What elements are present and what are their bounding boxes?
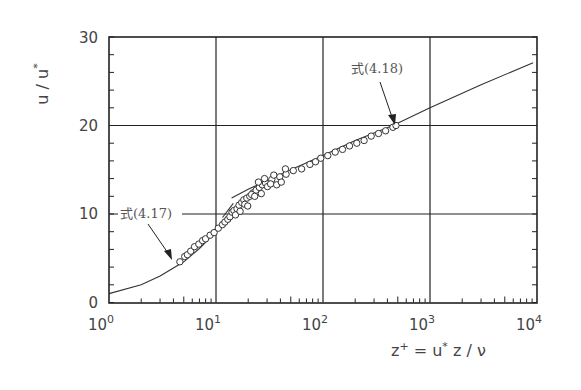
data-point-circle xyxy=(252,193,258,199)
data-point-circle xyxy=(346,143,352,149)
x-axis-title: z+ = u* z / ν xyxy=(391,340,486,360)
annotation-text-4-18: 式(4.18) xyxy=(351,61,403,76)
data-point-circle xyxy=(382,128,388,134)
gridlines xyxy=(109,37,537,303)
data-point-circle xyxy=(271,172,277,178)
arrow-head-icon xyxy=(388,114,396,125)
data-point-circle xyxy=(261,175,267,181)
data-point-circle xyxy=(245,203,251,209)
data-point-circle xyxy=(267,181,273,187)
y-tick-0: 0 xyxy=(88,294,98,312)
y-tick-20: 20 xyxy=(79,117,98,135)
data-point-circle xyxy=(393,122,399,128)
data-point-circle xyxy=(318,155,324,161)
x-tick-label: 101 xyxy=(195,313,221,334)
data-point-circle xyxy=(332,149,338,155)
arrow-line xyxy=(380,82,393,120)
data-point-circle xyxy=(237,208,243,214)
arrow-head-icon xyxy=(164,249,172,260)
data-point-circle xyxy=(354,140,360,146)
chart-canvas: 0 10 20 30 100101102103104 u / u* z+ = u… xyxy=(0,0,581,390)
data-point-circle xyxy=(298,166,304,172)
data-point-circle xyxy=(177,259,183,265)
data-point-circle xyxy=(255,179,261,185)
x-tick-label: 104 xyxy=(516,313,542,334)
x-tick-label: 100 xyxy=(88,313,114,334)
annotation-eq-4-17: 式(4.17) xyxy=(118,206,182,260)
data-point-circle xyxy=(325,152,331,158)
y-tick-10: 10 xyxy=(79,205,98,223)
svg-text:u / u*: u / u* xyxy=(31,63,52,105)
y-tick-labels: 0 10 20 30 xyxy=(79,29,98,312)
data-point-circle xyxy=(361,137,367,143)
x-axis-title-sup: + xyxy=(399,340,408,353)
y-axis-title: u / u* xyxy=(31,63,52,105)
data-point-circle xyxy=(258,190,264,196)
annotation-eq-4-18: 式(4.18) xyxy=(351,61,403,125)
data-point-circle xyxy=(339,146,345,152)
y-tick-30: 30 xyxy=(79,29,98,47)
data-point-circle xyxy=(290,167,296,173)
data-point-circle xyxy=(278,179,284,185)
x-tick-label: 103 xyxy=(409,313,435,334)
x-axis-title-rest: = u xyxy=(409,341,443,360)
data-points xyxy=(177,122,399,265)
curve-lines xyxy=(109,63,533,294)
x-tick-labels: 100101102103104 xyxy=(88,313,542,334)
data-point-circle xyxy=(375,130,381,136)
x-axis-title-tail: z / ν xyxy=(448,341,486,360)
annotation-text-4-17: 式(4.17) xyxy=(120,206,172,221)
x-tick-label: 102 xyxy=(302,313,328,334)
y-axis-title-main: u / u xyxy=(33,69,52,105)
data-point-circle xyxy=(282,166,288,172)
y-axis-title-sup: * xyxy=(31,63,44,69)
x-axis-title-main: z xyxy=(391,341,399,360)
data-point-circle xyxy=(368,133,374,139)
